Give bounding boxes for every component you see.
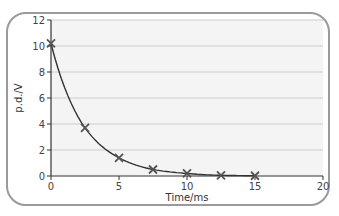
y-tick-label: 8: [39, 67, 45, 78]
x-tick-label: 15: [249, 181, 262, 192]
y-tick-label: 4: [39, 119, 45, 130]
x-axis-title: Time/ms: [165, 192, 209, 203]
decay-chart: 02468101205101520Time/msp.d./V: [0, 0, 339, 216]
y-tick-label: 12: [32, 15, 45, 26]
x-tick-label: 0: [48, 181, 54, 192]
x-tick-label: 10: [181, 181, 194, 192]
y-tick-label: 2: [39, 145, 45, 156]
y-tick-label: 0: [39, 171, 45, 182]
y-tick-label: 6: [39, 93, 45, 104]
y-axis-title: p.d./V: [13, 83, 24, 112]
y-tick-label: 10: [32, 41, 45, 52]
x-tick-label: 5: [116, 181, 122, 192]
x-tick-label: 20: [317, 181, 330, 192]
